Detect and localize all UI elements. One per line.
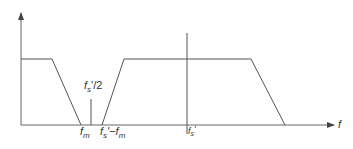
- fs-minus-fm-label: fs'−fm: [100, 125, 126, 140]
- x-axis-label: f: [338, 118, 342, 130]
- baseband-spectrum: [21, 59, 81, 125]
- half-fs-label: fs'/2: [84, 79, 102, 94]
- fs-label: fs': [188, 124, 196, 137]
- fm-label: fm: [80, 125, 90, 140]
- spectrum-diagram: f fm fs'/2 fs'−fm fs': [0, 0, 353, 149]
- image-spectrum: [102, 59, 285, 125]
